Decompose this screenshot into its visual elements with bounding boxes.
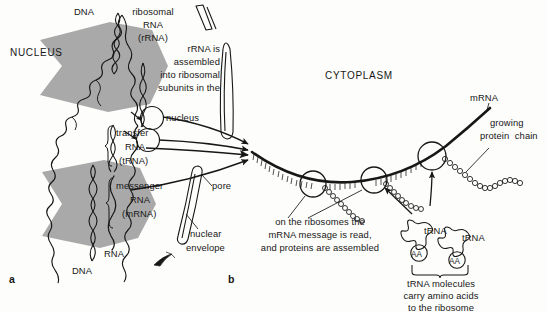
figure-canvas: NUCLEUS CYTOPLASM DNA DNA RNA ribosomal … (0, 0, 547, 312)
membrane-fragment-mark (154, 252, 175, 266)
nucleus-label: NUCLEUS (10, 47, 63, 58)
rrna-assembly-line5: nucleus (166, 112, 199, 123)
mrna-strand-cytoplasm (252, 108, 490, 182)
protein-chain-2 (384, 182, 424, 212)
mrna-label-line1: messenger (116, 180, 163, 191)
trna-label-line3: (tRNA) (119, 155, 148, 166)
membrane-cisterna-long (220, 43, 233, 139)
amino-acid-label-1: AA (411, 249, 422, 260)
ribosome-note-line1: on the ribosomes the (250, 216, 390, 227)
growing-protein-leader-line (466, 148, 489, 172)
growing-protein-label-line2: protein chain (480, 130, 538, 141)
growing-protein-label-line1: growing (490, 117, 524, 128)
rna-label: RNA (104, 248, 124, 259)
ribosome-note-line2: mRNA message is read, (250, 229, 390, 240)
membrane-cisterna-small (196, 5, 216, 30)
dna-bottom-label: DNA (72, 265, 92, 276)
trna-label-line2: RNA (125, 141, 145, 152)
rrna-label-line3: (rRNA) (110, 32, 196, 43)
mrna-cytoplasm-label: mRNA (470, 92, 498, 103)
trna-note-line3: to the ribosome (396, 302, 486, 312)
rrna-assembly-line2: assembled (150, 56, 220, 67)
trna-molecule-label-1: tRNA (424, 225, 447, 236)
pore-leader-line (202, 175, 212, 186)
trna-note-line2: carry amino acids (396, 290, 486, 301)
panel-label-a: a (9, 274, 15, 285)
pore-label: pore (212, 180, 231, 191)
rrna-label-line2: RNA (110, 19, 196, 30)
rrna-assembly-line3: into ribosomal (150, 69, 220, 80)
nuclear-envelope-label-line1: nuclear (190, 228, 221, 239)
cytoplasm-label: CYTOPLASM (325, 70, 393, 81)
dna-top-label: DNA (74, 6, 94, 17)
mrna-label-line3: (mRNA) (122, 208, 156, 219)
mrna-label-line2: RNA (130, 194, 150, 205)
trna-label-line1: transfer (116, 127, 149, 138)
ribosome-note-line3: and proteins are assembled (250, 242, 390, 253)
ribosome-1 (300, 171, 326, 197)
rrna-assembly-line1: rRNA is (150, 43, 220, 54)
trna-note-line1: tRNA molecules (396, 278, 486, 289)
trna-molecule-label-2: tRNA (462, 232, 485, 243)
nuclear-envelope-label-line2: envelope (186, 242, 225, 253)
nuclear-envelope-leader-line (186, 214, 198, 229)
panel-label-b: b (228, 274, 235, 285)
protein-chain-3 (442, 156, 522, 190)
rrna-label-line1: ribosomal (110, 6, 196, 17)
rrna-assembly-line4: subunits in the (150, 82, 220, 93)
amino-acid-label-2: AA (449, 256, 460, 267)
